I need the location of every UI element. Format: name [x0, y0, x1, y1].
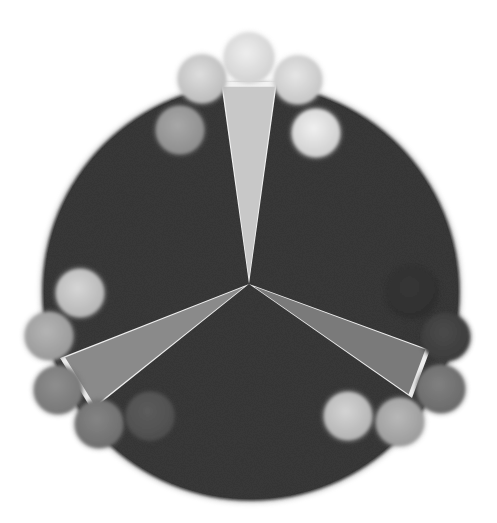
- sphere-left: [23, 310, 75, 362]
- sphere-right: [415, 363, 467, 415]
- sphere-body: [417, 365, 465, 413]
- sphere-body: [324, 392, 372, 440]
- sphere-left: [124, 390, 176, 442]
- sphere-body: [386, 266, 438, 318]
- sphere-body: [292, 109, 340, 157]
- sphere-left: [54, 267, 106, 319]
- sphere-body: [178, 55, 226, 103]
- illustration-canvas: [0, 0, 497, 523]
- sphere-body: [376, 398, 424, 446]
- sphere-body: [34, 366, 82, 414]
- three-wedge-disc-illustration: [0, 0, 497, 523]
- sphere-body: [156, 106, 204, 154]
- sphere-body: [56, 269, 104, 317]
- sphere-right: [322, 390, 374, 442]
- sphere-top: [154, 104, 206, 156]
- sphere-body: [25, 312, 73, 360]
- sphere-top: [176, 53, 228, 105]
- sphere-left: [73, 398, 125, 450]
- sphere-body: [126, 392, 174, 440]
- sphere-top: [272, 54, 324, 106]
- sphere-body: [75, 400, 123, 448]
- sphere-top: [222, 31, 276, 85]
- sphere-left: [32, 364, 84, 416]
- sphere-right: [384, 264, 440, 320]
- sphere-body: [422, 313, 470, 361]
- sphere-right: [420, 311, 472, 363]
- sphere-right: [374, 396, 426, 448]
- sphere-body: [224, 33, 274, 83]
- sphere-top: [290, 107, 342, 159]
- sphere-body: [274, 56, 322, 104]
